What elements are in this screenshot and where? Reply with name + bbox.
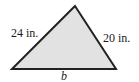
right-side-label: 20 in.	[103, 31, 130, 45]
left-side-label: 24 in.	[11, 26, 38, 40]
base-label: b	[61, 69, 67, 82]
triangle-figure: 24 in. 20 in. b	[0, 0, 139, 82]
triangle-diagram: 24 in. 20 in. b	[0, 0, 139, 82]
